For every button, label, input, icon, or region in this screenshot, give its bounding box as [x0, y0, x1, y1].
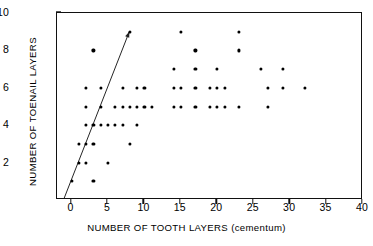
data-point: [114, 105, 117, 108]
data-point: [85, 161, 88, 164]
data-point: [99, 124, 102, 127]
data-point: [216, 105, 219, 108]
data-point: [259, 68, 262, 71]
data-point: [281, 68, 284, 71]
data-points-layer: [57, 13, 361, 198]
data-point: [223, 86, 226, 89]
data-point: [194, 105, 197, 108]
data-point: [85, 86, 88, 89]
data-point: [194, 68, 197, 71]
data-point: [85, 105, 88, 108]
data-point: [70, 180, 73, 183]
data-point: [179, 30, 182, 33]
data-point: [238, 30, 241, 33]
data-point: [136, 105, 139, 108]
data-point: [194, 86, 197, 89]
y-axis-tick-label: 8: [0, 44, 9, 55]
x-axis-tick-label: 10: [128, 202, 158, 213]
scatter-plot-figure: NUMBER OF TOENAIL LAYERS 246810 05101520…: [0, 0, 373, 246]
data-point: [216, 68, 219, 71]
data-point: [208, 105, 211, 108]
y-axis-label: NUMBER OF TOENAIL LAYERS: [27, 12, 38, 212]
x-axis-tick-label: 20: [201, 202, 231, 213]
data-point: [238, 105, 241, 108]
data-point: [92, 124, 95, 127]
data-point: [172, 105, 175, 108]
data-point: [121, 86, 124, 89]
data-point: [85, 142, 88, 145]
plot-area: [56, 12, 362, 199]
data-point: [172, 68, 175, 71]
data-point: [281, 86, 284, 89]
x-axis-tick-label: 35: [311, 202, 341, 213]
data-point: [179, 86, 182, 89]
data-point: [99, 86, 102, 89]
data-point: [92, 180, 95, 183]
x-axis-tick-label: 15: [165, 202, 195, 213]
data-point: [179, 105, 182, 108]
data-point: [143, 86, 146, 89]
data-point: [238, 49, 241, 52]
data-point: [194, 49, 197, 52]
data-point: [143, 105, 146, 108]
data-point: [121, 124, 124, 127]
data-point: [128, 105, 131, 108]
data-point: [92, 49, 95, 52]
data-point: [267, 86, 270, 89]
data-point: [106, 124, 109, 127]
data-point: [267, 105, 270, 108]
data-point: [150, 105, 153, 108]
data-point: [85, 124, 88, 127]
data-point: [223, 105, 226, 108]
x-axis-tick-label: 30: [274, 202, 304, 213]
data-point: [99, 105, 102, 108]
x-axis-tick-label: 0: [56, 202, 86, 213]
x-axis-tick-label: 25: [238, 202, 268, 213]
y-axis-tick-label: 2: [0, 156, 9, 167]
y-axis-tick-label: 6: [0, 82, 9, 93]
data-point: [208, 86, 211, 89]
data-point: [114, 124, 117, 127]
x-axis-tick-label: 5: [92, 202, 122, 213]
data-point: [303, 86, 306, 89]
x-axis-tick-label: 40: [347, 202, 373, 213]
y-axis-tick-label: 10: [0, 7, 9, 18]
data-point: [77, 142, 80, 145]
x-axis-label: NUMBER OF TOOTH LAYERS (cementum): [0, 222, 373, 233]
data-point: [136, 86, 139, 89]
data-point: [136, 124, 139, 127]
data-point: [121, 105, 124, 108]
data-point: [128, 30, 131, 33]
y-axis-tick-label: 4: [0, 119, 9, 130]
data-point: [106, 161, 109, 164]
data-point: [128, 142, 131, 145]
data-point: [216, 86, 219, 89]
data-point: [92, 142, 95, 145]
data-point: [77, 161, 80, 164]
data-point: [172, 86, 175, 89]
